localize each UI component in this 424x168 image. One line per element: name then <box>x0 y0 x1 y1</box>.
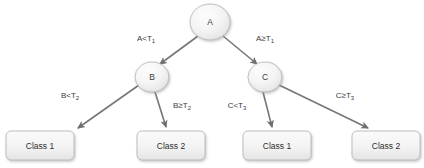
leaf-node-1[interactable]: Class 1 <box>6 131 74 160</box>
edge-label-c-left: C<T3 <box>228 101 247 111</box>
edge-line-c-to-class1 <box>263 92 272 127</box>
edge-label-b-right: B≥T2 <box>173 101 192 111</box>
node-label-b: B <box>149 72 155 82</box>
edge-label-a-left-main: A<T <box>137 34 152 43</box>
decision-tree-diagram: Class 1 Class 2 Class 1 Class 2 A <box>0 0 424 168</box>
node-label-a: A <box>207 17 213 27</box>
edge-label-a-right: A≥T1 <box>256 34 275 44</box>
edge-label-b-right-main: B≥T <box>173 101 188 110</box>
edge-label-b-right-sub: 2 <box>188 105 192 111</box>
decision-node-group: A B C <box>135 4 282 92</box>
edge-label-b-left: B<T2 <box>61 91 80 101</box>
edge-line-a-to-c <box>223 36 257 64</box>
decision-node-c[interactable]: C <box>248 62 282 92</box>
edge-label-b-left-sub: 2 <box>76 95 80 101</box>
leaf-label-4: Class 2 <box>372 141 401 151</box>
leaf-label-1: Class 1 <box>26 141 55 151</box>
leaf-node-3[interactable]: Class 1 <box>243 131 311 160</box>
edge-label-a-right-main: A≥T <box>256 34 271 43</box>
edge-group <box>78 36 368 128</box>
edge-label-b-left-main: B<T <box>61 91 76 100</box>
edge-label-a-left-sub: 1 <box>152 38 156 44</box>
edge-line-c-to-class2 <box>279 85 368 128</box>
decision-node-b[interactable]: B <box>135 62 169 92</box>
edge-label-c-left-main: C<T <box>228 101 243 110</box>
edge-label-c-right-sub: 3 <box>351 95 355 101</box>
edge-label-c-right-main: C≥T <box>336 91 351 100</box>
edge-label-c-right: C≥T3 <box>336 91 355 101</box>
leaf-label-3: Class 1 <box>263 141 292 151</box>
leaf-group: Class 1 Class 2 Class 1 Class 2 <box>6 131 420 160</box>
leaf-label-2: Class 2 <box>157 141 186 151</box>
edge-label-group: A<T1 A≥T1 B<T2 B≥T2 C<T3 C≥T3 <box>61 34 355 111</box>
edge-label-a-right-sub: 1 <box>271 38 275 44</box>
edge-line-a-to-b <box>160 36 198 64</box>
tree-canvas: Class 1 Class 2 Class 1 Class 2 A <box>0 0 424 168</box>
edge-line-b-to-class2 <box>155 92 166 127</box>
node-label-c: C <box>262 72 268 82</box>
edge-label-c-left-sub: 3 <box>243 105 247 111</box>
decision-node-a[interactable]: A <box>190 4 230 40</box>
leaf-node-2[interactable]: Class 2 <box>137 131 205 160</box>
edge-line-b-to-class1 <box>78 85 139 128</box>
leaf-node-4[interactable]: Class 2 <box>352 131 420 160</box>
edge-label-a-left: A<T1 <box>137 34 156 44</box>
